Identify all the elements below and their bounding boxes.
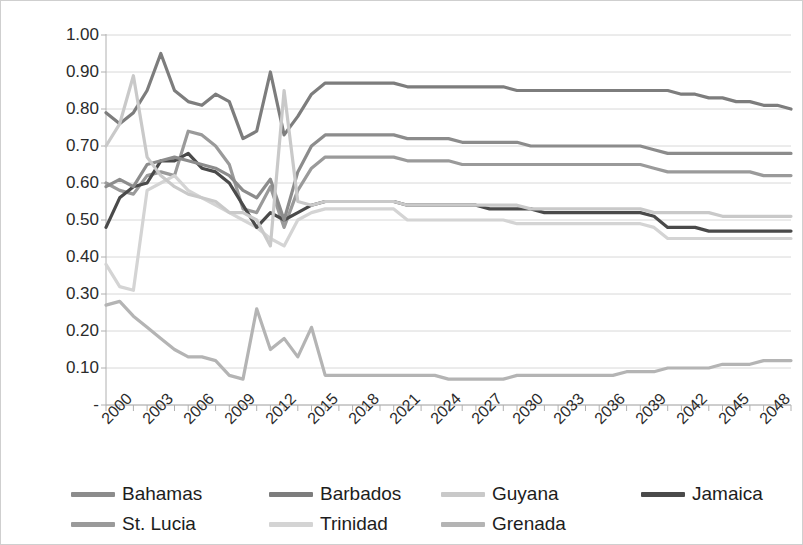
legend-label: Jamaica xyxy=(692,483,763,505)
legend-item-trinidad[interactable]: Trinidad xyxy=(269,509,388,539)
legend-item-jamaica[interactable]: Jamaica xyxy=(641,479,763,509)
y-tick-label: 1.00 xyxy=(33,25,99,45)
series-line-barbados xyxy=(106,54,791,139)
legend-label: St. Lucia xyxy=(122,513,196,535)
legend-swatch-icon xyxy=(441,492,485,497)
y-tick-label: 0.80 xyxy=(33,99,99,119)
y-tick-label: 0.50 xyxy=(33,210,99,230)
legend-swatch-icon xyxy=(71,492,115,497)
legend-item-grenada[interactable]: Grenada xyxy=(441,509,566,539)
y-axis-ticks: 1.000.900.800.700.600.500.400.300.200.10… xyxy=(29,1,99,471)
legend-row: St. LuciaTrinidadGrenada xyxy=(1,509,803,539)
legend-label: Grenada xyxy=(492,513,566,535)
y-tick-label: 0.70 xyxy=(33,136,99,156)
legend-label: Bahamas xyxy=(122,483,202,505)
legend-item-st--lucia[interactable]: St. Lucia xyxy=(71,509,196,539)
y-tick-label: 0.10 xyxy=(33,358,99,378)
y-tick-label: 0.40 xyxy=(33,247,99,267)
legend-item-bahamas[interactable]: Bahamas xyxy=(71,479,202,509)
legend-swatch-icon xyxy=(641,492,685,497)
y-tick-label: 0.60 xyxy=(33,173,99,193)
chart-container: Index 1.000.900.800.700.600.500.400.300.… xyxy=(0,0,803,545)
series-line-bahamas xyxy=(106,135,791,220)
series-line-trinidad xyxy=(106,176,791,291)
legend-item-guyana[interactable]: Guyana xyxy=(441,479,559,509)
x-axis-ticks: 2000200320062009201220152018202120242027… xyxy=(1,409,803,489)
legend-label: Guyana xyxy=(492,483,559,505)
legend-swatch-icon xyxy=(71,522,115,527)
legend-swatch-icon xyxy=(269,522,313,527)
y-tick-label: 0.30 xyxy=(33,284,99,304)
legend-label: Trinidad xyxy=(320,513,388,535)
legend-row: BahamasBarbadosGuyanaJamaica xyxy=(1,479,803,509)
series-line-grenada xyxy=(106,301,791,379)
y-tick-label: 0.90 xyxy=(33,62,99,82)
legend-label: Barbados xyxy=(320,483,401,505)
legend-item-barbados[interactable]: Barbados xyxy=(269,479,401,509)
y-tick-label: 0.20 xyxy=(33,321,99,341)
legend-swatch-icon xyxy=(269,492,313,497)
chart-legend: BahamasBarbadosGuyanaJamaicaSt. LuciaTri… xyxy=(1,479,803,545)
legend-swatch-icon xyxy=(441,522,485,527)
